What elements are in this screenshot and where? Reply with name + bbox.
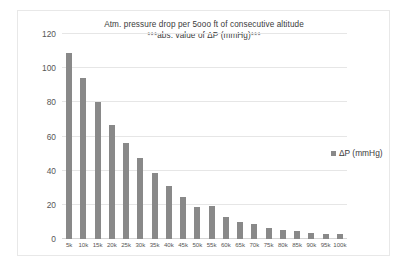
x-axis-tick-label: 60k (219, 241, 233, 248)
x-axis-tick-label: 75k (262, 241, 276, 248)
x-axis-tick-label: 30k (133, 241, 147, 248)
bar[interactable] (223, 217, 229, 239)
bar[interactable] (152, 173, 158, 239)
legend-square-marker-icon (331, 151, 336, 156)
bar[interactable] (237, 222, 243, 239)
bar-slot (233, 34, 247, 239)
bar-slot (262, 34, 276, 239)
bar[interactable] (80, 78, 86, 239)
legend-entry-label: ΔP (mmHg) (339, 148, 383, 158)
x-axis-tick-label: 35k (148, 241, 162, 248)
bar[interactable] (294, 231, 300, 239)
bar-slot (247, 34, 261, 239)
x-axis-tick-label: 5k (62, 241, 76, 248)
bar[interactable] (266, 228, 272, 239)
bar-slot (276, 34, 290, 239)
bar-series (62, 34, 347, 239)
bar-slot (219, 34, 233, 239)
x-axis-tick-label: 50k (190, 241, 204, 248)
bar-slot (333, 34, 347, 239)
bar-slot (62, 34, 76, 239)
bar-slot (119, 34, 133, 239)
y-axis-tick-label: 120 (42, 29, 56, 39)
bar-slot (319, 34, 333, 239)
bar[interactable] (66, 53, 72, 239)
bar[interactable] (251, 224, 257, 239)
bar-slot (105, 34, 119, 239)
y-axis-tick-label: 20 (47, 200, 56, 210)
bar[interactable] (337, 234, 343, 239)
x-axis-tick-label: 85k (290, 241, 304, 248)
x-axis-tick-label: 45k (176, 241, 190, 248)
x-axis-tick-label: 80k (276, 241, 290, 248)
bar-slot (205, 34, 219, 239)
y-axis-tick-label: 80 (47, 97, 56, 107)
x-axis-tick-label: 55k (205, 241, 219, 248)
x-axis-tick-label: 95k (319, 241, 333, 248)
bar-slot (290, 34, 304, 239)
bar[interactable] (109, 125, 115, 239)
bar-slot (162, 34, 176, 239)
y-axis-tick-label: 40 (47, 166, 56, 176)
x-axis-tick-label: 40k (162, 241, 176, 248)
bar[interactable] (166, 186, 172, 239)
bar[interactable] (308, 233, 314, 239)
bar-slot (176, 34, 190, 239)
bar[interactable] (209, 206, 215, 239)
x-axis-tick-label: 70k (247, 241, 261, 248)
bar-slot (91, 34, 105, 239)
x-axis-tick-label: 90k (304, 241, 318, 248)
x-axis-tick-label: 65k (233, 241, 247, 248)
chart-card: Atm. pressure drop per 5ooo ft of consec… (17, 10, 390, 256)
x-axis-tick-label: 20k (105, 241, 119, 248)
y-axis-tick-label: 0 (51, 234, 56, 244)
bar[interactable] (194, 207, 200, 239)
x-axis-tick-label: 10k (76, 241, 90, 248)
bar[interactable] (123, 143, 129, 239)
x-axis-tick-label: 25k (119, 241, 133, 248)
x-axis-tick-label: 15k (91, 241, 105, 248)
bar[interactable] (323, 234, 329, 239)
bar-slot (190, 34, 204, 239)
bar[interactable] (180, 197, 186, 239)
bar[interactable] (137, 158, 143, 239)
y-axis-tick-label: 60 (47, 132, 56, 142)
bar[interactable] (280, 230, 286, 239)
bar[interactable] (95, 102, 101, 239)
bar-slot (304, 34, 318, 239)
chart-title-line-1: Atm. pressure drop per 5ooo ft of consec… (104, 20, 304, 29)
bar-slot (148, 34, 162, 239)
bar-slot (133, 34, 147, 239)
x-axis-tick-label: 100k (333, 241, 347, 248)
x-axis-tick-labels: 5k10k15k20k25k30k35k40k45k50k55k60k65k70… (62, 241, 347, 248)
chart-legend: ΔP (mmHg) (331, 148, 383, 158)
plot-area: 020406080100120 (62, 34, 347, 239)
bar-slot (76, 34, 90, 239)
y-axis-tick-label: 100 (42, 63, 56, 73)
